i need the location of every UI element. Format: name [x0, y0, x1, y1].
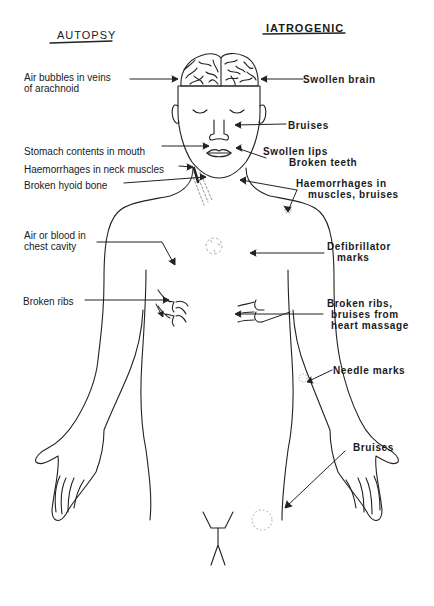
- label-line: Broken ribs: [23, 296, 74, 307]
- label-chest-cavity: Air or blood in chest cavity: [24, 230, 86, 252]
- label-line: chest cavity: [24, 241, 86, 252]
- neck-haemorrhage-mark: [194, 168, 198, 182]
- label-line: Haemorrhages in: [296, 178, 399, 189]
- label-muscle-haemorrhages: Haemorrhages in muscles, bruises: [296, 178, 399, 200]
- label-needle-marks: Needle marks: [333, 365, 405, 376]
- label-defibrillator: Defibrillator marks: [327, 241, 391, 263]
- label-line: Defibrillator: [327, 241, 391, 252]
- autopsy-header: AUTOPSY: [57, 29, 116, 41]
- label-line: Bruises: [288, 120, 329, 131]
- label-neck-haemorrhages: Haemorrhages in neck muscles: [24, 164, 164, 175]
- torso-left: [36, 168, 193, 520]
- label-line: Stomach contents in mouth: [24, 146, 145, 157]
- label-broken-ribs-autopsy: Broken ribs: [23, 296, 74, 307]
- iatrogenic-header: IATROGENIC: [266, 22, 344, 34]
- autopsy-underline: [50, 41, 112, 43]
- label-line: Broken hyoid bone: [24, 180, 107, 191]
- label-line: Broken ribs,: [327, 298, 409, 309]
- label-swollen-brain: Swollen brain: [303, 74, 376, 85]
- label-line: Swollen brain: [303, 74, 376, 85]
- broken-ribs-right-icon: [238, 300, 264, 322]
- label-line: Broken teeth: [263, 157, 357, 168]
- label-stomach-contents: Stomach contents in mouth: [24, 146, 145, 157]
- thigh-bruise-icon: [252, 510, 272, 530]
- label-bruises-face: Bruises: [288, 120, 329, 131]
- brain-icon: [181, 54, 258, 86]
- label-bruises-thigh: Bruises: [353, 442, 394, 453]
- label-air-bubbles: Air bubbles in veins of arachnoid: [24, 72, 111, 94]
- label-line: bruises from: [327, 309, 409, 320]
- label-line: Air bubbles in veins: [24, 72, 111, 83]
- label-line: Haemorrhages in neck muscles: [24, 164, 164, 175]
- annotation-arrows: [85, 76, 345, 508]
- broken-ribs-left-icon: [158, 290, 188, 326]
- label-line: Needle marks: [333, 365, 405, 376]
- label-hyoid-bone: Broken hyoid bone: [24, 180, 107, 191]
- label-line: of arachnoid: [24, 83, 111, 94]
- label-line: Bruises: [353, 442, 394, 453]
- label-line: marks: [327, 252, 391, 263]
- label-heart-massage: Broken ribs, bruises from heart massage: [327, 298, 409, 331]
- needle-marks-icon: [299, 374, 307, 382]
- torso-right: [246, 168, 398, 520]
- defibrillator-marks-icon: [206, 238, 222, 254]
- label-line: heart massage: [327, 320, 409, 331]
- head-outline: [178, 86, 260, 178]
- label-line: muscles, bruises: [296, 189, 399, 200]
- label-swollen-lips: Swollen lips Broken teeth: [263, 146, 357, 168]
- label-line: Swollen lips: [263, 146, 357, 157]
- label-line: Air or blood in: [24, 230, 86, 241]
